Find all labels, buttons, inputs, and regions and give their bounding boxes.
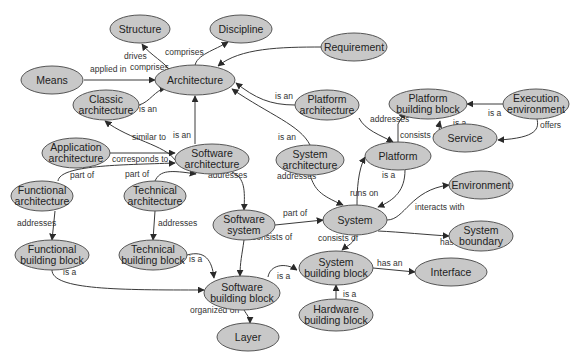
edge-arrow	[232, 89, 310, 145]
edge-arrow	[155, 172, 196, 181]
edge-system-architecture-to-architecture	[232, 89, 310, 145]
node-label: Structure	[119, 23, 162, 35]
node-system-architecture[interactable]: Systemarchitecture	[276, 145, 344, 175]
edge-arrow	[378, 231, 449, 236]
edge-label: part of	[283, 208, 308, 218]
node-label: Layer	[235, 331, 262, 343]
edge-label: addresses	[158, 218, 197, 228]
edge-label: is an	[139, 104, 157, 114]
edge-label: comprises	[165, 47, 204, 57]
edge-label: is a	[277, 271, 291, 281]
node-service[interactable]: Service	[433, 124, 497, 152]
node-execution-environment[interactable]: Executionenvironment	[503, 89, 569, 119]
edge-label: is a	[343, 289, 357, 299]
node-architecture[interactable]: Architecture	[155, 65, 235, 95]
node-label: architecture	[128, 195, 183, 207]
node-label: Discipline	[219, 23, 264, 35]
edge-arrow	[139, 88, 166, 105]
edge-execution-environment-to-service	[498, 119, 538, 140]
edge-label: is an	[173, 130, 191, 140]
edge-label: applied in	[90, 64, 127, 74]
node-discipline[interactable]: Discipline	[210, 15, 272, 43]
edge-arrow	[244, 310, 250, 323]
node-platform-building-block[interactable]: Platformbuilding block	[389, 89, 467, 119]
node-label: System	[337, 214, 372, 226]
edge-technical-architecture-to-software-architecture	[155, 172, 196, 181]
node-hardware-building-block[interactable]: Hardwarebuilding block	[299, 299, 373, 331]
node-platform[interactable]: Platform	[365, 142, 431, 170]
edge-label: is an	[275, 91, 293, 101]
edge-label: is a	[488, 108, 502, 118]
edge-label: similar to	[132, 132, 166, 142]
node-label: architecture	[300, 104, 355, 116]
node-label: architecture	[49, 152, 104, 164]
node-label: Environment	[452, 179, 511, 191]
edge-technical-architecture-to-technical-building-block	[153, 211, 155, 240]
edge-system-to-system-boundary	[378, 231, 449, 236]
node-requirement[interactable]: Requirement	[321, 33, 387, 61]
node-software-system[interactable]: Softwaresystem	[213, 210, 275, 240]
edge-software-system-to-system	[275, 220, 323, 225]
node-interface[interactable]: Interface	[415, 258, 487, 286]
node-label: Platform	[378, 150, 417, 162]
node-label: architecture	[15, 195, 70, 207]
node-functional-building-block[interactable]: Functionalbuilding block	[15, 240, 89, 270]
edge-label: is a	[189, 254, 203, 264]
node-layer[interactable]: Layer	[217, 323, 279, 351]
edge-arrow	[275, 220, 323, 225]
edge-arrow	[373, 268, 415, 272]
node-technical-architecture[interactable]: Technicalarchitecture	[124, 181, 186, 211]
edge-label: offers	[540, 120, 561, 130]
node-label: building block	[121, 254, 185, 266]
node-system-boundary[interactable]: Systemboundary	[449, 221, 513, 251]
concept-map: comprisescomprisesdrivesapplied inis ani…	[0, 0, 586, 364]
node-means[interactable]: Means	[21, 66, 83, 94]
node-label: system	[227, 224, 261, 236]
node-environment[interactable]: Environment	[449, 171, 513, 199]
node-label: boundary	[459, 235, 504, 247]
node-label: Means	[36, 74, 68, 86]
node-label: building block	[210, 292, 274, 304]
node-functional-architecture[interactable]: Functionalarchitecture	[11, 181, 73, 211]
node-label: building block	[396, 103, 460, 115]
edge-label: runs on	[350, 188, 379, 198]
edge-label: has an	[377, 258, 403, 268]
node-label: architecture	[185, 158, 240, 170]
node-label: Architecture	[167, 74, 223, 86]
edge-label: is an	[278, 132, 296, 142]
edge-requirement-to-architecture	[218, 47, 322, 66]
edge-software-building-block-to-layer	[244, 310, 250, 323]
edge-label: part of	[70, 170, 95, 180]
node-label: environment	[507, 103, 565, 115]
edge-arrow	[498, 119, 538, 140]
edge-label: drives	[124, 51, 147, 61]
node-system-building-block[interactable]: Systembuilding block	[299, 251, 373, 285]
node-technical-building-block[interactable]: Technicalbuilding block	[119, 240, 187, 270]
node-classic-architecture[interactable]: Classicarchitecture	[73, 90, 139, 120]
node-label: Requirement	[324, 41, 384, 53]
edge-classic-architecture-to-architecture	[139, 88, 166, 105]
edge-system-building-block-to-interface	[373, 268, 415, 272]
node-structure[interactable]: Structure	[110, 15, 170, 43]
node-software-architecture[interactable]: Softwarearchitecture	[175, 144, 249, 174]
edge-arrow	[240, 240, 244, 276]
node-platform-architecture[interactable]: Platformarchitecture	[295, 90, 359, 120]
node-application-architecture[interactable]: Applicationarchitecture	[42, 138, 110, 168]
edge-software-system-to-software-building-block	[240, 240, 244, 276]
node-label: architecture	[79, 104, 134, 116]
edge-arrow	[218, 47, 322, 66]
node-label: building block	[304, 314, 368, 326]
edge-label: corresponds to	[112, 154, 168, 164]
edge-arrow	[153, 211, 155, 240]
node-label: building block	[304, 267, 368, 279]
node-label: Interface	[431, 266, 472, 278]
edge-label: is a	[382, 170, 396, 180]
concept-map-svg: comprisescomprisesdrivesapplied inis ani…	[0, 0, 586, 364]
node-label: building block	[20, 254, 84, 266]
edge-label: addresses	[17, 218, 56, 228]
edge-label: interacts with	[415, 202, 465, 212]
edge-label: part of	[125, 169, 150, 179]
node-system[interactable]: System	[323, 205, 387, 235]
node-software-building-block[interactable]: Softwarebuilding block	[204, 276, 280, 310]
node-label: Service	[447, 132, 482, 144]
